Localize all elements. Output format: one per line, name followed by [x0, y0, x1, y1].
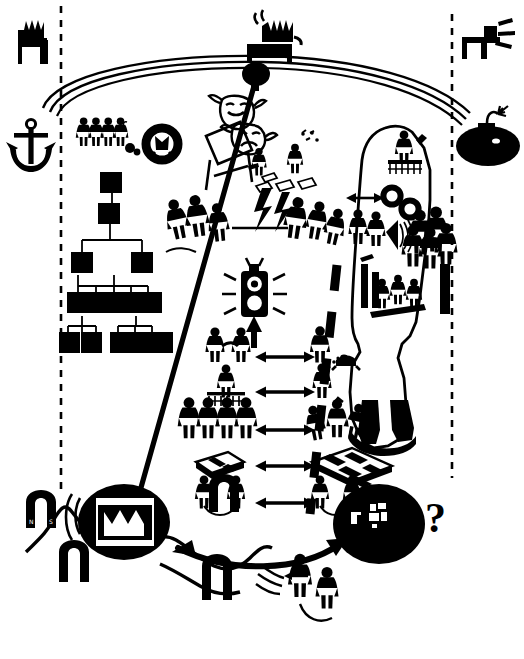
svg-text:S: S — [82, 546, 86, 553]
two-rings-inner — [383, 187, 418, 217]
traffic-light-icon — [222, 258, 287, 348]
dark-globe-unknown-icon — [333, 484, 425, 564]
machinery-inner — [360, 254, 450, 314]
question-mark-annotation: ? — [425, 497, 446, 539]
illustration-svg: N S N S N S — [0, 0, 524, 659]
figure-canvas: N S N S N S — [0, 0, 524, 659]
feedback-arrow — [172, 538, 348, 566]
pair-row-3 — [178, 397, 371, 442]
side-figures — [346, 193, 386, 246]
org-chart-icon — [59, 172, 173, 353]
horseshoe-magnet-icon-4 — [209, 474, 239, 512]
organization-body-outline — [348, 126, 458, 456]
anchor-icon — [6, 119, 56, 172]
antenna-transmitter-icon — [462, 18, 515, 59]
factory-icon — [18, 20, 48, 64]
figure-queue — [76, 118, 141, 156]
svg-text:S: S — [49, 518, 53, 525]
horseshoe-magnet-icon-2: N S — [59, 540, 89, 582]
conflict-scene — [162, 188, 349, 252]
horseshoe-magnet-icon-1: N S — [26, 490, 56, 528]
bomb-icon — [456, 106, 520, 166]
svg-text:N: N — [29, 518, 34, 525]
figures-with-papers — [248, 130, 319, 192]
svg-text:N: N — [62, 546, 67, 553]
life-ring-icon — [146, 128, 178, 160]
factory-broadcast-icon — [247, 10, 301, 62]
podium-group-inner — [388, 131, 427, 174]
pair-row-1 — [205, 326, 360, 370]
